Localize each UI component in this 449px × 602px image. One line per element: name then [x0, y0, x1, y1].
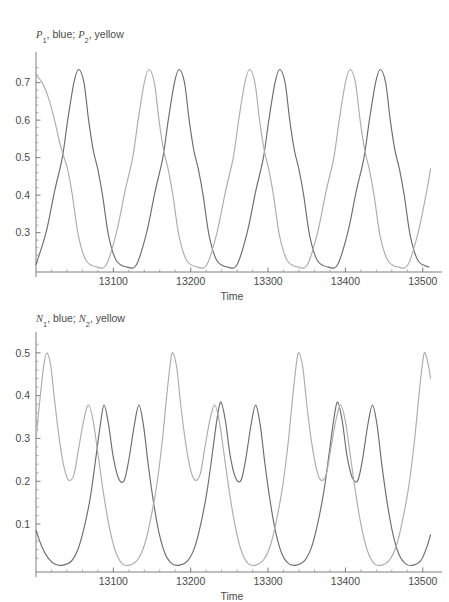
x-tick-label: 13500 [408, 275, 437, 287]
x-tick-label: 13100 [99, 275, 128, 287]
y-tick-label: 0.4 [15, 389, 30, 401]
y-tick-label: 0.1 [15, 518, 30, 530]
x-tick-label: 13200 [176, 575, 205, 587]
series-legend-label: P1, blue; P2, yellow [35, 28, 124, 45]
series-curve-1 [36, 402, 431, 565]
y-tick-label: 0.5 [15, 347, 30, 359]
y-tick-label: 0.4 [15, 189, 30, 201]
y-tick-label: 0.7 [15, 76, 30, 88]
x-tick-label: 13100 [99, 575, 128, 587]
y-tick-label: 0.5 [15, 151, 30, 163]
x-tick-label: 13500 [408, 575, 437, 587]
chart-svg-p: P1, blue; P2, yellow0.30.40.50.60.713100… [0, 0, 449, 310]
x-tick-label: 13400 [331, 275, 360, 287]
x-axis-title: Time [221, 290, 244, 302]
y-tick-label: 0.3 [15, 226, 30, 238]
series-curve-2 [36, 70, 431, 269]
x-tick-label: 13300 [253, 275, 282, 287]
x-tick-label: 13300 [253, 575, 282, 587]
y-tick-label: 0.6 [15, 114, 30, 126]
chart-svg-n: N1, blue; N2, yellow0.10.20.30.40.513100… [0, 310, 449, 602]
series-curve-1 [36, 70, 429, 269]
y-tick-label: 0.3 [15, 432, 30, 444]
x-tick-label: 13400 [331, 575, 360, 587]
y-tick-label: 0.2 [15, 475, 30, 487]
series-legend-label: N1, blue; N2, yellow [35, 312, 125, 329]
chart-panel-n: N1, blue; N2, yellow0.10.20.30.40.513100… [0, 310, 449, 602]
chart-panel-p: P1, blue; P2, yellow0.30.40.50.60.713100… [0, 0, 449, 310]
x-axis-title: Time [221, 590, 244, 602]
x-tick-label: 13200 [176, 275, 205, 287]
